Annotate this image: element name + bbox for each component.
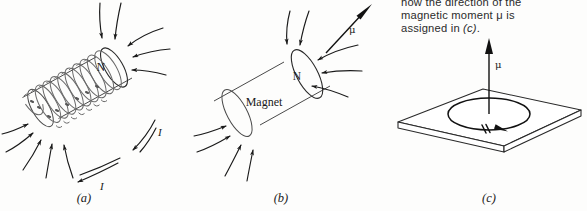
solenoid-north-pole-label: N: [97, 61, 106, 73]
magnetic-moment-figure: N I I (a): [0, 0, 587, 211]
caption-line-1: how the direction of the: [401, 0, 521, 9]
magnet-body: [214, 45, 330, 140]
caption-panel-ref: (c): [463, 22, 477, 34]
caption-line-2-pre: magnetic moment: [401, 9, 496, 21]
figure-canvas: N I I (a): [0, 0, 587, 211]
mu-label-c: μ: [495, 59, 502, 70]
caption-line-2-post: is: [503, 9, 515, 21]
caption-mu-symbol: μ: [496, 9, 503, 21]
magnet-north-face: [285, 45, 329, 103]
solenoid-windings: [25, 47, 126, 126]
mu-label-b: μ: [349, 24, 356, 35]
magnet-north-pole-label: N: [293, 70, 302, 82]
solenoid-edge-top: [23, 57, 97, 98]
magnet-field-lines-south: [194, 126, 253, 181]
caption-line-3-post: .: [477, 22, 480, 34]
mu-arrowhead-b: [357, 4, 373, 20]
solenoid-panel: N I I (a): [2, 3, 170, 205]
panel-label-a: (a): [77, 191, 92, 205]
solenoid-leads: [78, 120, 156, 182]
field-lines-north: [100, 3, 170, 75]
current-label-bottom: I: [99, 180, 105, 192]
mu-arrowhead-c: [485, 38, 493, 54]
panel-label-c: (c): [482, 191, 496, 205]
winding-current-ticks: [31, 86, 98, 117]
field-lines-south: [2, 124, 73, 178]
panel-label-b: (b): [274, 191, 289, 205]
caption-line-2: magnetic moment μ is: [401, 9, 515, 22]
magnet-body-label: Magnet: [246, 95, 283, 109]
bar-magnet-panel: N Magnet μ (b): [194, 4, 372, 205]
current-label-right: I: [157, 126, 163, 138]
magnet-south-face: [216, 85, 258, 140]
current-loop-panel: μ (c): [398, 38, 581, 205]
mu-shaft-b: [326, 12, 364, 53]
caption-line-3-pre: assigned in: [401, 22, 463, 34]
caption-line-3: assigned in (c).: [401, 22, 480, 35]
